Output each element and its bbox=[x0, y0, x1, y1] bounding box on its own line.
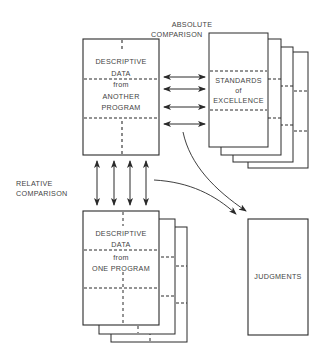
relative-label-line-2: COMPARISON bbox=[16, 189, 68, 199]
standards-text: STANDARDS of EXCELLENCE bbox=[209, 76, 268, 106]
curved-arrow-from-relative bbox=[154, 180, 236, 214]
judgments-text: JUDGMENTS bbox=[248, 272, 308, 282]
standards-line-1: STANDARDS bbox=[209, 76, 268, 86]
one-program-line-1: DESCRIPTIVE bbox=[83, 228, 159, 239]
another-program-line-2: DATA bbox=[83, 68, 159, 80]
absolute-comparison-label: ABSOLUTE COMPARISON bbox=[152, 20, 232, 40]
one-program-line-3: from bbox=[83, 252, 159, 263]
absolute-label-line-2: COMPARISON bbox=[151, 30, 232, 40]
another-program-line-5: PROGRAM bbox=[83, 102, 159, 114]
one-program-line-2: DATA bbox=[83, 239, 159, 250]
absolute-comparison-arrows bbox=[164, 77, 205, 124]
one-program-text: DESCRIPTIVE DATA from ONE PROGRAM bbox=[83, 228, 159, 274]
another-program-line-4: ANOTHER bbox=[83, 91, 159, 103]
another-program-text: DESCRIPTIVE DATA from ANOTHER PROGRAM bbox=[83, 56, 159, 114]
relative-label-line-1: RELATIVE bbox=[16, 179, 68, 189]
absolute-label-line-1: ABSOLUTE bbox=[152, 20, 232, 30]
another-program-line-1: DESCRIPTIVE bbox=[83, 56, 159, 68]
relative-comparison-arrows bbox=[97, 161, 146, 205]
diagram-canvas bbox=[0, 0, 325, 354]
relative-comparison-label: RELATIVE COMPARISON bbox=[16, 179, 68, 199]
one-program-line-4: ONE PROGRAM bbox=[83, 263, 159, 274]
standards-line-2: of bbox=[209, 86, 268, 96]
standards-line-3: EXCELLENCE bbox=[209, 96, 268, 106]
another-program-line-3: from bbox=[83, 79, 159, 91]
